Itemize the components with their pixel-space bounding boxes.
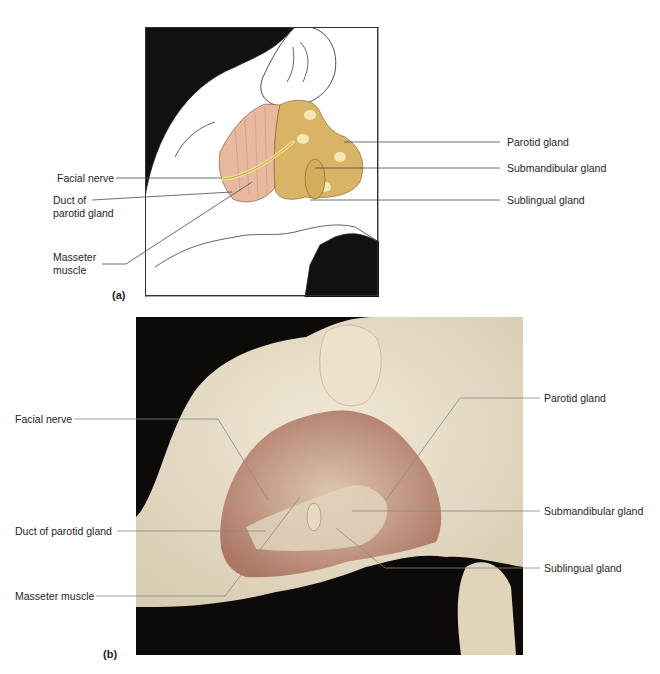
label-a-masseter-line2: muscle xyxy=(53,264,86,277)
label-b-masseter: Masseter muscle xyxy=(15,590,94,603)
label-b-sublingual: Sublingual gland xyxy=(544,562,622,575)
label-a-submandibular: Submandibular gland xyxy=(507,162,606,175)
submandibular-gland-shape xyxy=(305,159,325,199)
label-a-duct-line2: parotid gland xyxy=(53,207,114,220)
panel-a-tag: (a) xyxy=(112,289,125,301)
label-a-parotid: Parotid gland xyxy=(507,136,569,149)
dissection-photo xyxy=(136,317,523,655)
label-b-parotid: Parotid gland xyxy=(544,392,606,405)
panel-a-illustration xyxy=(145,27,379,297)
label-b-submandibular: Submandibular gland xyxy=(544,505,643,518)
label-a-duct-line1: Duct of xyxy=(53,194,86,207)
cat-head-illustration xyxy=(145,27,379,297)
panel-b-tag: (b) xyxy=(103,648,117,660)
label-a-sublingual: Sublingual gland xyxy=(507,194,585,207)
label-a-masseter-line1: Masseter xyxy=(53,251,96,264)
label-b-facial-nerve: Facial nerve xyxy=(15,413,72,426)
panel-b-photograph xyxy=(136,317,523,655)
label-a-facial-nerve: Facial nerve xyxy=(57,172,114,185)
label-b-duct: Duct of parotid gland xyxy=(15,525,112,538)
